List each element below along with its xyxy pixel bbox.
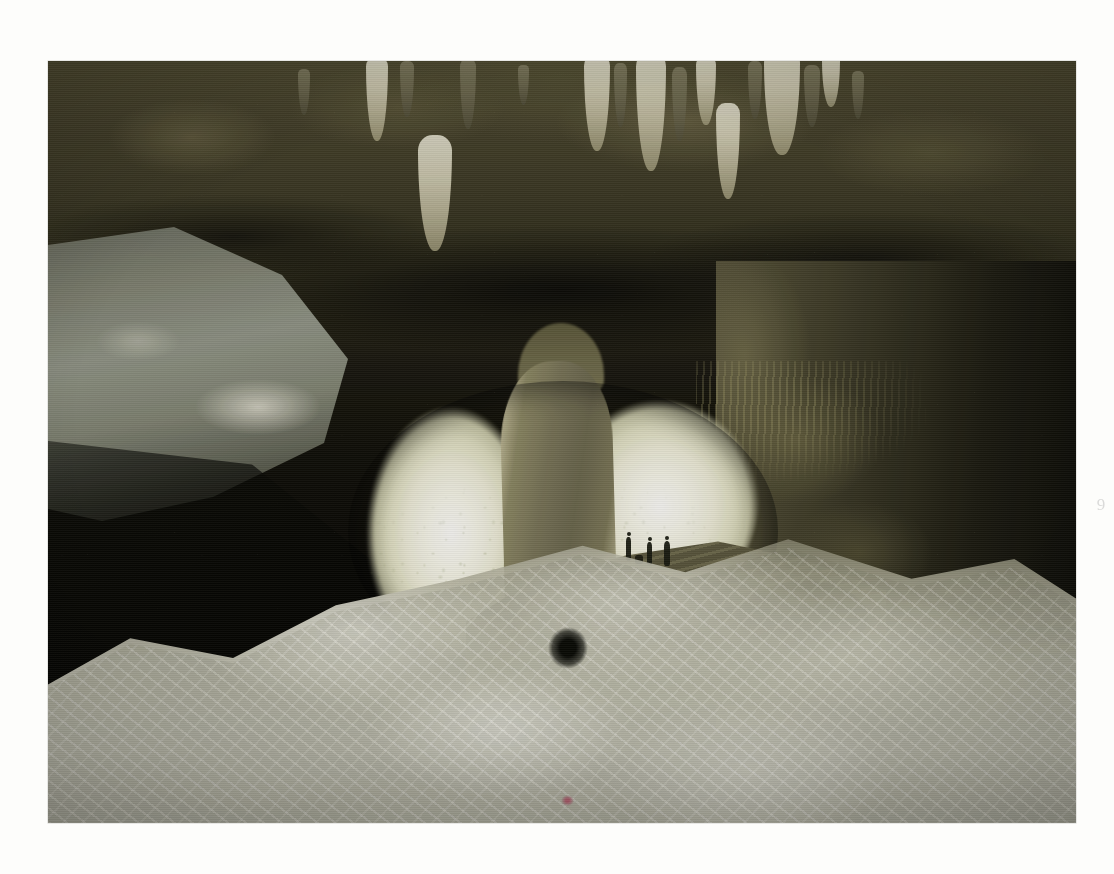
cave-photograph: Cave interior with large entrance chambe… [48, 61, 1076, 823]
page-folio-mark: 9 [1090, 492, 1112, 518]
rock-grain-texture [48, 61, 1076, 823]
page-sheet: 9 [0, 0, 1114, 874]
